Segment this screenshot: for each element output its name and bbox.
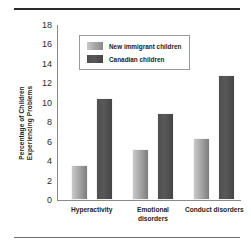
legend-label-series-0: New immigrant children	[109, 43, 181, 50]
legend-item-canadian-children: Canadian children	[87, 55, 181, 63]
y-axis-tick-label: 0	[47, 196, 52, 205]
legend-label-series-1: Canadian children	[109, 56, 164, 63]
y-axis-title-line-1: Percentage of Children	[18, 86, 26, 160]
y-axis-tick-label: 10	[42, 98, 52, 107]
y-axis-tick-label: 2	[47, 176, 52, 185]
x-axis-category-label-line: Conduct disorders	[178, 206, 250, 215]
bar	[132, 149, 149, 200]
legend: New immigrant children Canadian children	[79, 35, 190, 70]
y-axis-tick-label: 8	[47, 118, 52, 127]
y-axis-tick-label: 16	[42, 40, 52, 49]
y-axis-title-line-2: Experiencing Problems	[25, 86, 33, 160]
x-axis-category-label: Conduct disorders	[178, 206, 250, 215]
y-axis-tick-label: 12	[42, 79, 52, 88]
y-axis-tick-label: 6	[47, 137, 52, 146]
bar	[96, 98, 113, 200]
y-axis-title: Percentage of Children Experiencing Prob…	[17, 116, 33, 131]
bar	[218, 75, 235, 200]
plot-area: 024681012141618 HyperactivityEmotionaldi…	[57, 25, 241, 200]
legend-swatch-icon-series-0	[87, 42, 103, 50]
bar-group	[193, 25, 235, 200]
y-axis-tick-label: 18	[42, 21, 52, 30]
legend-item-new-immigrant-children: New immigrant children	[87, 42, 181, 50]
y-axis-tick-label: 4	[47, 157, 52, 166]
bar	[71, 165, 88, 200]
bar	[193, 138, 210, 200]
figure-top-rule	[14, 8, 240, 10]
figure-bottom-rule	[14, 237, 240, 238]
bar	[157, 113, 174, 200]
y-axis-line	[57, 25, 58, 200]
legend-swatch-icon-series-1	[87, 55, 103, 63]
x-axis-category-label-line: disorders	[117, 215, 189, 224]
figure: Percentage of Children Experiencing Prob…	[0, 0, 251, 246]
y-axis-tick-label: 14	[42, 59, 52, 68]
x-axis-line	[57, 200, 241, 201]
